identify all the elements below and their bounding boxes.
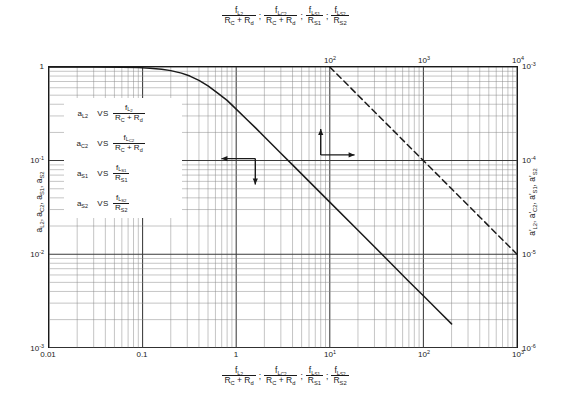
top-tick-0: 102 <box>324 56 336 65</box>
legend-ratio: fL2RC + Rd <box>113 104 182 122</box>
legend-row: aC2VSfLC2RC + Rd <box>64 128 182 158</box>
legend-vs-label: VS <box>93 109 113 118</box>
right-tick-0: 10-3 <box>519 62 536 71</box>
legend-vs-label: VS <box>93 169 113 178</box>
legend-vs-label: VS <box>93 199 113 208</box>
curve-legend: aL2VSfL2RC + RdaC2VSfLC2RC + RdaS1VSfLS1… <box>64 98 182 218</box>
legend-symbol: aC2 <box>64 139 93 148</box>
left-axis-caption: aL2, aC2, aS1, aS2 <box>34 147 44 257</box>
bottom-tick-4: 102 <box>418 350 430 359</box>
legend-row: aL2VSfL2RC + Rd <box>64 98 182 128</box>
right-axis-caption: a'L2, a'C2, a'S1, a'S2 <box>527 147 537 257</box>
bottom-tick-1: 0.1 <box>136 350 147 359</box>
top-tick-1: 103 <box>418 56 430 65</box>
right-tick-3: 10-6 <box>519 344 536 353</box>
bottom-tick-3: 101 <box>324 350 336 359</box>
legend-symbol: aL2 <box>64 109 93 118</box>
legend-ratio: fLS2RS2 <box>113 194 182 212</box>
right-arrow-annotation-horizontal <box>321 152 355 157</box>
legend-symbol: aS2 <box>64 199 93 208</box>
legend-ratio: fLC2RC + Rd <box>113 134 182 152</box>
legend-ratio: fLS1RS1 <box>113 164 182 182</box>
legend-row: aS2VSfLS2RS2 <box>64 188 182 218</box>
left-arrow-annotation-horizontal <box>221 156 255 161</box>
right-arrow-annotation-vertical <box>318 129 323 155</box>
legend-vs-label: VS <box>93 139 113 148</box>
legend-row: aS1VSfLS1RS1 <box>64 158 182 188</box>
left-arrow-annotation-vertical <box>253 159 258 185</box>
left-tick-0: 1 <box>40 62 47 71</box>
legend-symbol: aS1 <box>64 169 93 178</box>
bottom-tick-2: 1 <box>234 350 238 359</box>
series-dashed-curve <box>330 67 517 348</box>
figure-page: fL2RC + Rd;fLC2RC + Rd;fLS1RS1;fLS2RS2 1… <box>0 0 571 419</box>
bottom-axis-caption: fL2RC + Rd;fLC2RC + Rd;fLS1RS1;fLS2RS2 <box>0 366 571 385</box>
left-tick-3: 10-3 <box>30 344 47 353</box>
top-axis-caption: fL2RC + Rd;fLC2RC + Rd;fLS1RS1;fLS2RS2 <box>0 6 571 25</box>
